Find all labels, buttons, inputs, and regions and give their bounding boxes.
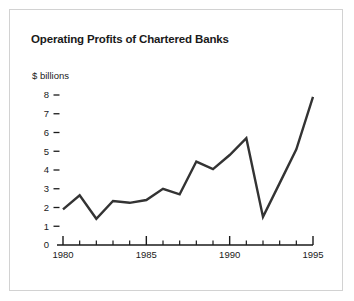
line-chart-plot: 012345678 1980198519901995 [0, 0, 354, 301]
y-axis-tick-label: 7 [44, 108, 49, 119]
x-axis-ticks: 1980198519901995 [52, 236, 323, 260]
y-axis-tick-label: 3 [44, 183, 49, 194]
figure-container: Operating Profits of Chartered Banks $ b… [0, 0, 354, 301]
y-axis-tick-label: 2 [44, 202, 49, 213]
x-axis-tick-label: 1995 [302, 249, 323, 260]
y-axis-ticks: 012345678 [44, 89, 60, 250]
y-axis-tick-label: 4 [44, 164, 49, 175]
data-series-line [63, 97, 313, 219]
y-axis-tick-label: 0 [44, 239, 49, 250]
y-axis-tick-label: 5 [44, 146, 49, 157]
y-axis-tick-label: 8 [44, 89, 49, 100]
x-axis-tick-label: 1990 [219, 249, 240, 260]
y-axis-tick-label: 1 [44, 221, 49, 232]
y-axis-tick-label: 6 [44, 127, 49, 138]
x-axis-tick-label: 1985 [136, 249, 157, 260]
x-axis-tick-label: 1980 [52, 249, 73, 260]
